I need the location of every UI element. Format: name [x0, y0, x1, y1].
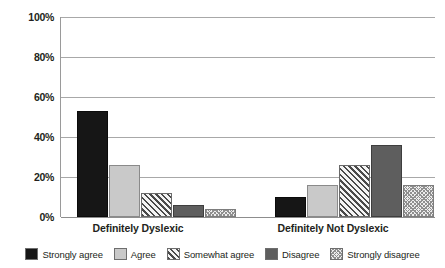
legend-label: Agree: [131, 249, 156, 260]
gridline: [61, 217, 435, 218]
bar: [307, 185, 338, 217]
y-axis-tick-label: 40%: [0, 131, 54, 143]
bar-chart: 100%80%60%40%20%0% Definitely DyslexicDe…: [0, 0, 445, 268]
x-axis-category-label: Definitely Not Dyslexic: [233, 222, 433, 234]
legend-item[interactable]: Disagree: [265, 248, 319, 260]
legend-item[interactable]: Somewhat agree: [167, 248, 254, 260]
bar: [371, 145, 402, 217]
bar: [205, 209, 236, 217]
legend-swatch-icon: [167, 248, 180, 260]
legend-item[interactable]: Strongly disagree: [330, 248, 419, 260]
gridline: [61, 97, 435, 98]
legend-label: Somewhat agree: [184, 249, 254, 260]
y-axis-tick-label: 80%: [0, 51, 54, 63]
bar: [339, 165, 370, 217]
legend-swatch-icon: [330, 248, 343, 260]
gridline: [61, 137, 435, 138]
y-axis-tick-label: 100%: [0, 11, 54, 23]
y-axis-tick-label: 60%: [0, 91, 54, 103]
legend-swatch-icon: [265, 248, 278, 260]
bar: [275, 197, 306, 217]
legend-label: Strongly disagree: [347, 249, 419, 260]
gridline: [61, 17, 435, 18]
y-axis-tick-label: 20%: [0, 171, 54, 183]
bar: [173, 205, 204, 217]
legend-label: Strongly agree: [42, 249, 102, 260]
legend-item[interactable]: Agree: [114, 248, 156, 260]
plot-area: [60, 17, 434, 217]
legend: Strongly agreeAgreeSomewhat agreeDisagre…: [0, 243, 445, 265]
bar: [403, 185, 434, 217]
bar: [77, 111, 108, 217]
legend-item[interactable]: Strongly agree: [25, 248, 102, 260]
legend-swatch-icon: [25, 248, 38, 260]
bar: [141, 193, 172, 217]
bar: [109, 165, 140, 217]
gridline: [61, 57, 435, 58]
legend-swatch-icon: [114, 248, 127, 260]
x-axis-category-label: Definitely Dyslexic: [38, 222, 238, 234]
legend-label: Disagree: [282, 249, 319, 260]
